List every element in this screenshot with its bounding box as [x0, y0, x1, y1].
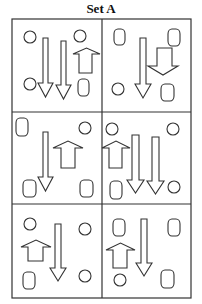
grid-cell-r1c2: [112, 29, 180, 101]
arrow-up-icon: [21, 240, 51, 261]
arrow-down-icon: [147, 137, 164, 194]
set-a-grid-figure: [0, 0, 202, 304]
circle-icon: [74, 30, 86, 42]
grid-cell-r2c1: [16, 118, 93, 197]
arrow-down-icon: [127, 135, 144, 193]
arrow-up-icon: [102, 141, 130, 168]
grid-cell-r1c1: [24, 30, 100, 99]
arrow-down-icon: [56, 41, 71, 99]
arrow-up-icon: [106, 243, 135, 268]
rounded-square-icon: [16, 118, 28, 136]
circle-icon: [168, 181, 180, 193]
rounded-square-icon: [168, 219, 180, 236]
rounded-square-icon: [161, 84, 174, 101]
arrow-up-icon: [53, 141, 83, 168]
circle-icon: [114, 274, 126, 286]
arrow-down-icon: [136, 219, 152, 276]
rounded-square-icon: [78, 79, 89, 96]
arrow-down-icon: [38, 132, 53, 191]
circle-icon: [112, 83, 124, 95]
arrow-up-icon: [73, 48, 100, 73]
arrow-down-icon: [50, 224, 66, 281]
arrow-down-icon: [135, 38, 151, 98]
arrow-down-icon: [38, 38, 53, 97]
circle-icon: [167, 123, 179, 135]
circle-icon: [24, 31, 36, 43]
rounded-square-icon: [110, 181, 122, 199]
circle-icon: [106, 123, 118, 135]
grid-cell-r3c1: [21, 218, 91, 289]
circle-icon: [24, 78, 36, 90]
circle-icon: [79, 270, 91, 282]
rounded-square-icon: [161, 270, 174, 288]
circle-icon: [79, 223, 91, 235]
circle-icon: [79, 122, 91, 134]
rounded-square-icon: [23, 180, 36, 197]
grid-cells: [16, 29, 180, 289]
rounded-square-icon: [168, 29, 180, 46]
rounded-square-icon: [114, 29, 125, 45]
rounded-square-icon: [80, 180, 93, 197]
rounded-square-icon: [23, 272, 35, 289]
rounded-square-icon: [113, 219, 125, 236]
grid-cell-r3c2: [106, 219, 180, 288]
arrow-down-icon: [148, 48, 178, 75]
circle-icon: [24, 218, 36, 230]
grid-cell-r2c2: [102, 123, 180, 199]
